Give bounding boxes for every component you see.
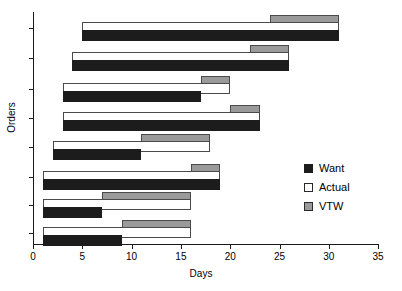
x-tick-mark bbox=[329, 244, 330, 249]
bar-want bbox=[72, 60, 289, 71]
bar-want bbox=[43, 207, 102, 218]
horizontal-bar-chart: 05101520253035 Days Orders WantActualVTW bbox=[0, 0, 402, 291]
x-tick-label: 30 bbox=[317, 251, 341, 262]
x-tick-mark bbox=[230, 244, 231, 249]
y-axis-title: Orders bbox=[6, 88, 17, 148]
bars-plot-area bbox=[0, 0, 402, 291]
x-tick-label: 20 bbox=[218, 251, 242, 262]
chart-legend: WantActualVTW bbox=[304, 160, 350, 217]
bar-want bbox=[53, 149, 142, 160]
legend-label: VTW bbox=[319, 200, 343, 212]
legend-label: Actual bbox=[319, 181, 350, 193]
bar-want bbox=[43, 179, 220, 190]
bar-want bbox=[82, 30, 338, 41]
x-tick-label: 25 bbox=[268, 251, 292, 262]
legend-item-vtw: VTW bbox=[304, 198, 350, 214]
x-tick-mark bbox=[378, 244, 379, 249]
x-tick-label: 0 bbox=[21, 251, 45, 262]
x-tick-label: 5 bbox=[70, 251, 94, 262]
bar-want bbox=[63, 120, 260, 131]
legend-label: Want bbox=[319, 162, 344, 174]
x-tick-mark bbox=[181, 244, 182, 249]
bar-want bbox=[63, 91, 201, 102]
x-axis-title: Days bbox=[0, 268, 402, 279]
legend-item-want: Want bbox=[304, 160, 350, 176]
x-tick-mark bbox=[280, 244, 281, 249]
x-tick-label: 10 bbox=[120, 251, 144, 262]
legend-swatch-actual-icon bbox=[304, 183, 313, 192]
x-tick-mark bbox=[82, 244, 83, 249]
legend-item-actual: Actual bbox=[304, 179, 350, 195]
legend-swatch-vtw-icon bbox=[304, 202, 313, 211]
x-tick-label: 35 bbox=[366, 251, 390, 262]
legend-swatch-want-icon bbox=[304, 164, 313, 173]
x-tick-mark bbox=[33, 244, 34, 249]
x-tick-mark bbox=[132, 244, 133, 249]
x-tick-label: 15 bbox=[169, 251, 193, 262]
